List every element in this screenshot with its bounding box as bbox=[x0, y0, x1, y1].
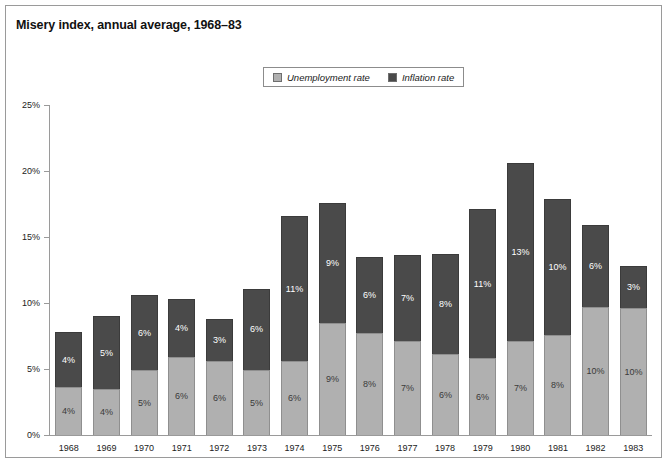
bar-segment-label: 11% bbox=[286, 285, 303, 294]
y-axis-tick-label: 5% bbox=[0, 365, 40, 374]
y-axis-tick-label: 15% bbox=[0, 233, 40, 242]
bar-segment-unemployment[interactable]: 5% bbox=[131, 370, 158, 435]
bar-segment-label: 9% bbox=[326, 375, 339, 384]
bar-group[interactable]: 11%6% bbox=[469, 209, 496, 435]
bar-segment-inflation[interactable]: 5% bbox=[93, 316, 120, 389]
plot-wrapper: 0%5%10%15%20%25% 4%4%5%4%6%5%4%6%3%6%6%5… bbox=[6, 6, 663, 459]
bar-segment-inflation[interactable]: 11% bbox=[469, 209, 496, 358]
bar-group[interactable]: 3%6% bbox=[206, 319, 233, 435]
x-axis-tick-label: 1974 bbox=[276, 444, 314, 453]
bar-segment-inflation[interactable]: 3% bbox=[206, 319, 233, 361]
bar-group[interactable]: 6%5% bbox=[131, 295, 158, 435]
bar-segment-inflation[interactable]: 4% bbox=[55, 332, 82, 387]
bar-segment-unemployment[interactable]: 6% bbox=[432, 354, 459, 435]
bar-group[interactable]: 3%10% bbox=[620, 266, 647, 435]
bar-group[interactable]: 6%5% bbox=[243, 289, 270, 436]
bar-segment-inflation[interactable]: 8% bbox=[432, 254, 459, 354]
x-axis-tick-label: 1968 bbox=[50, 444, 88, 453]
bar-segment-inflation[interactable]: 4% bbox=[168, 299, 195, 357]
bar-segment-label: 10% bbox=[586, 367, 604, 376]
bar-segment-label: 5% bbox=[250, 399, 263, 408]
bar-group[interactable]: 4%6% bbox=[168, 299, 195, 435]
bar-segment-unemployment[interactable]: 6% bbox=[168, 357, 195, 435]
x-axis-tick-label: 1979 bbox=[464, 444, 502, 453]
bar-segment-label: 4% bbox=[62, 356, 75, 365]
bar-segment-unemployment[interactable]: 9% bbox=[319, 323, 346, 435]
x-axis-tick-label: 1983 bbox=[614, 444, 652, 453]
bar-segment-label: 5% bbox=[138, 399, 151, 408]
bar-segment-inflation[interactable]: 3% bbox=[620, 266, 647, 308]
bar-segment-inflation[interactable]: 6% bbox=[131, 295, 158, 370]
bar-segment-label: 6% bbox=[213, 394, 226, 403]
bar-group[interactable]: 5%4% bbox=[93, 316, 120, 435]
bar-segment-label: 8% bbox=[363, 380, 376, 389]
y-axis-tick-label: 10% bbox=[0, 299, 40, 308]
bar-segment-inflation[interactable]: 10% bbox=[544, 199, 571, 335]
x-axis-tick-label: 1982 bbox=[577, 444, 615, 453]
bar-segment-unemployment[interactable]: 4% bbox=[55, 387, 82, 435]
y-axis-tick-label: 25% bbox=[0, 101, 40, 110]
bar-segment-label: 6% bbox=[288, 394, 301, 403]
x-axis-line bbox=[49, 435, 652, 436]
x-axis-tick-label: 1981 bbox=[539, 444, 577, 453]
bar-segment-label: 3% bbox=[627, 283, 640, 292]
bar-segment-label: 6% bbox=[363, 291, 376, 300]
bar-group[interactable]: 11%6% bbox=[281, 216, 308, 435]
bar-segment-label: 6% bbox=[138, 329, 151, 338]
y-axis-tick-label: 20% bbox=[0, 167, 40, 176]
x-axis-tick-label: 1978 bbox=[426, 444, 464, 453]
bar-segment-label: 7% bbox=[401, 294, 414, 303]
bar-segment-inflation[interactable]: 6% bbox=[356, 257, 383, 334]
y-axis-tick bbox=[44, 435, 50, 436]
bar-segment-unemployment[interactable]: 8% bbox=[356, 333, 383, 435]
bar-segment-label: 8% bbox=[551, 381, 564, 390]
x-axis-tick-label: 1969 bbox=[88, 444, 126, 453]
bar-segment-inflation[interactable]: 9% bbox=[319, 203, 346, 323]
bar-segment-label: 4% bbox=[175, 324, 188, 333]
chart-figure: Misery index, annual average, 1968–83 Un… bbox=[5, 5, 662, 458]
x-axis-tick-label: 1972 bbox=[201, 444, 239, 453]
bar-group[interactable]: 6%10% bbox=[582, 225, 609, 435]
bar-group[interactable]: 13%7% bbox=[507, 163, 534, 435]
bar-segment-unemployment[interactable]: 7% bbox=[394, 341, 421, 435]
bar-segment-inflation[interactable]: 11% bbox=[281, 216, 308, 361]
bar-group[interactable]: 9%9% bbox=[319, 203, 346, 435]
bar-segment-label: 7% bbox=[401, 384, 414, 393]
bar-segment-label: 10% bbox=[624, 368, 642, 377]
x-axis-tick-label: 1980 bbox=[502, 444, 540, 453]
bar-segment-unemployment[interactable]: 7% bbox=[507, 341, 534, 435]
bar-segment-label: 3% bbox=[213, 336, 226, 345]
plot-area: 4%4%5%4%6%5%4%6%3%6%6%5%11%6%9%9%6%8%7%7… bbox=[50, 105, 652, 435]
bar-segment-unemployment[interactable]: 5% bbox=[243, 370, 270, 435]
x-axis-tick-label: 1975 bbox=[313, 444, 351, 453]
bar-segment-label: 6% bbox=[250, 325, 263, 334]
bar-segment-unemployment[interactable]: 10% bbox=[582, 307, 609, 435]
bar-segment-label: 6% bbox=[439, 391, 452, 400]
bar-segment-label: 9% bbox=[326, 259, 339, 268]
bar-group[interactable]: 10%8% bbox=[544, 199, 571, 435]
bar-group[interactable]: 6%8% bbox=[356, 257, 383, 435]
bar-segment-inflation[interactable]: 6% bbox=[243, 289, 270, 371]
bar-group[interactable]: 4%4% bbox=[55, 332, 82, 435]
bar-segment-unemployment[interactable]: 6% bbox=[281, 361, 308, 435]
bar-segment-unemployment[interactable]: 6% bbox=[206, 361, 233, 435]
bar-group[interactable]: 8%6% bbox=[432, 254, 459, 435]
bar-segment-label: 4% bbox=[62, 407, 75, 416]
x-axis-tick-label: 1970 bbox=[125, 444, 163, 453]
bar-group[interactable]: 7%7% bbox=[394, 255, 421, 435]
bar-segment-unemployment[interactable]: 10% bbox=[620, 308, 647, 435]
bar-segment-inflation[interactable]: 7% bbox=[394, 255, 421, 341]
bar-segment-label: 6% bbox=[476, 393, 489, 402]
bar-segment-label: 10% bbox=[548, 263, 566, 272]
bar-segment-label: 8% bbox=[439, 300, 452, 309]
bar-segment-inflation[interactable]: 13% bbox=[507, 163, 534, 341]
bar-segment-label: 5% bbox=[100, 349, 113, 358]
bar-segment-unemployment[interactable]: 4% bbox=[93, 389, 120, 435]
bar-segment-label: 4% bbox=[100, 408, 113, 417]
bar-segment-inflation[interactable]: 6% bbox=[582, 225, 609, 307]
bar-segment-unemployment[interactable]: 6% bbox=[469, 358, 496, 435]
bar-segment-unemployment[interactable]: 8% bbox=[544, 335, 571, 435]
x-axis-tick-label: 1976 bbox=[351, 444, 389, 453]
bar-segment-label: 6% bbox=[589, 262, 602, 271]
y-axis-tick-label: 0% bbox=[0, 431, 40, 440]
